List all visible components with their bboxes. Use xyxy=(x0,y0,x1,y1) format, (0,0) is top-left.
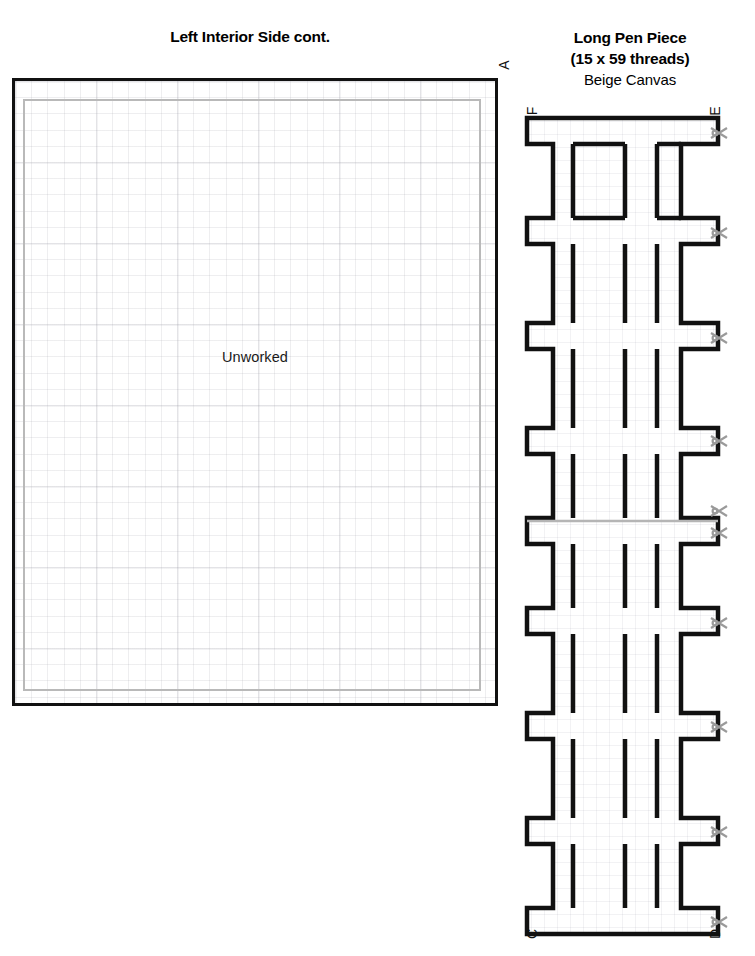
cut-mark-icon xyxy=(711,506,727,516)
corner-marker-f: F xyxy=(525,103,539,119)
right-panel-title-line1: Long Pen Piece xyxy=(505,28,755,48)
unworked-area-label: Unworked xyxy=(15,349,495,365)
corner-marker-c: C xyxy=(525,926,539,942)
long-pen-piece-diagram xyxy=(505,108,755,953)
right-panel-title-block: Long Pen Piece (15 x 59 threads) Beige C… xyxy=(505,28,755,91)
corner-marker-e: E xyxy=(708,103,722,119)
right-panel-title-line2: (15 x 59 threads) xyxy=(505,48,755,69)
left-panel-title: Left Interior Side cont. xyxy=(0,28,500,46)
right-panel-title-line3: Beige Canvas xyxy=(505,69,755,91)
pen-piece-outline-svg xyxy=(505,108,755,953)
pattern-sheet: Left Interior Side cont. Unworked A Long… xyxy=(0,0,755,956)
left-interior-canvas-panel: Unworked xyxy=(12,78,498,706)
canvas-stitch-guide-outline xyxy=(23,99,481,691)
corner-marker-d: D xyxy=(708,926,722,942)
